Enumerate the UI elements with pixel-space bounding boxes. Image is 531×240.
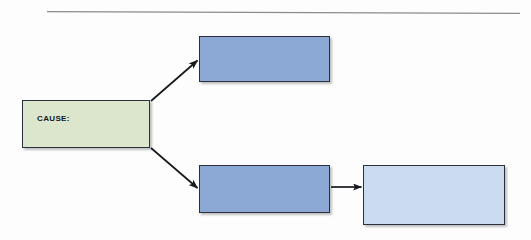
arrow-cause-to-effect-upper bbox=[151, 61, 198, 102]
node-outcome[interactable] bbox=[363, 165, 505, 225]
node-cause-label: CAUSE: bbox=[37, 114, 70, 123]
node-cause[interactable]: CAUSE: bbox=[22, 100, 150, 148]
node-effect-lower[interactable] bbox=[199, 165, 330, 213]
node-effect-upper[interactable] bbox=[199, 36, 330, 82]
page-top-rule bbox=[47, 11, 520, 14]
diagram-canvas: CAUSE: bbox=[0, 0, 531, 240]
arrow-cause-to-effect-lower bbox=[151, 148, 198, 188]
